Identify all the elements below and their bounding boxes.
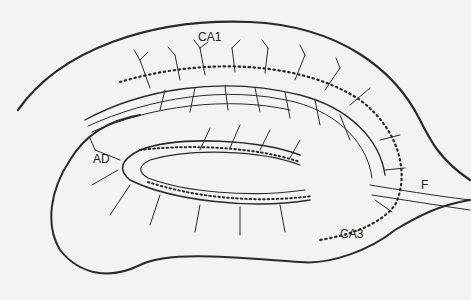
label-ca3: CA3 — [340, 227, 363, 241]
label-ad: AD — [93, 152, 110, 166]
hippocampus-diagram: CA1 CA3 AD F — [0, 0, 471, 300]
label-f: F — [421, 178, 428, 192]
hippocampus-drawing — [0, 0, 471, 300]
label-ca1: CA1 — [198, 30, 221, 44]
